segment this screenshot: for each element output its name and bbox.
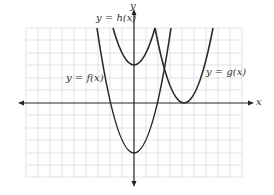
y-axis-label: y <box>130 1 136 11</box>
curve-g <box>155 28 213 103</box>
x-axis-left-arrow-icon <box>18 101 24 106</box>
curve-h-label: y = h(x) <box>96 13 136 23</box>
curve-g-label: y = g(x) <box>206 67 246 77</box>
x-axis-label: x <box>256 97 262 107</box>
x-axis <box>18 101 254 106</box>
x-axis-right-arrow-icon <box>248 101 254 106</box>
y-axis-bottom-arrow-icon <box>132 181 137 187</box>
curve-f-label: y = f(x) <box>66 73 104 83</box>
y-axis <box>132 9 137 187</box>
coordinate-plane <box>0 0 274 195</box>
